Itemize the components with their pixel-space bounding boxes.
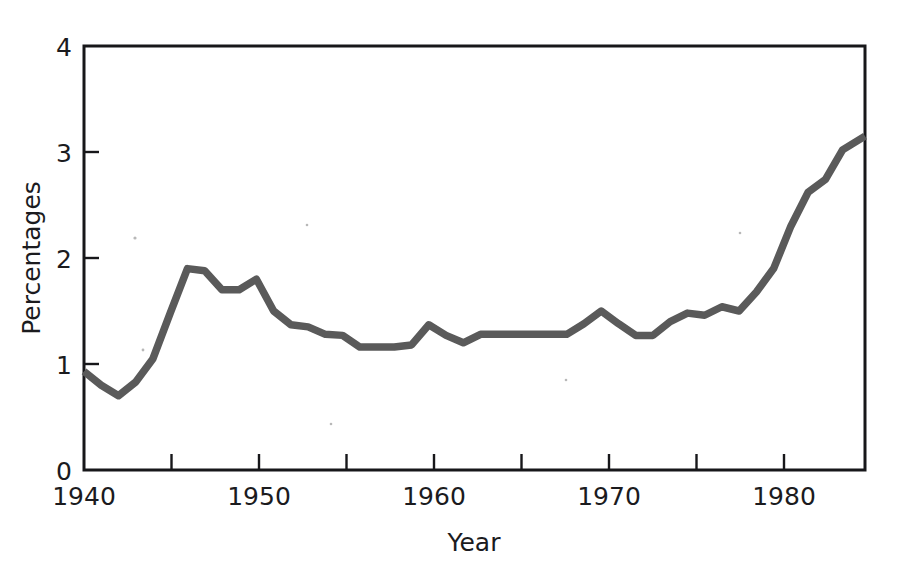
x-axis-ticks	[172, 454, 785, 470]
y-tick-label-4: 4	[56, 33, 72, 62]
x-axis-title: Year	[447, 528, 502, 557]
chart-figure: 4 3 2 1 0 1940 1950 1960 1970 1980 Perce…	[0, 0, 899, 574]
x-tick-label-1940: 1940	[52, 482, 116, 511]
x-tick-label-1950: 1950	[227, 482, 291, 511]
y-tick-label-1: 1	[56, 351, 72, 380]
scan-artifacts	[133, 224, 741, 426]
x-tick-label-1960: 1960	[402, 482, 466, 511]
y-tick-label-3: 3	[56, 139, 72, 168]
y-tick-label-2: 2	[56, 245, 72, 274]
line-chart: 4 3 2 1 0 1940 1950 1960 1970 1980 Perce…	[0, 0, 899, 574]
x-tick-label-1970: 1970	[577, 482, 641, 511]
y-axis-title: Percentages	[17, 181, 46, 335]
plot-frame	[84, 46, 865, 470]
x-tick-label-1980: 1980	[752, 482, 816, 511]
y-axis-ticks	[84, 152, 99, 364]
data-series-percentages	[84, 136, 865, 396]
